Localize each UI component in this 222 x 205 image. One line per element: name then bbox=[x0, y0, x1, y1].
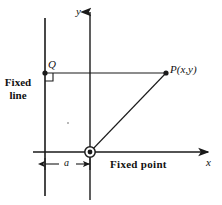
point-p-marker bbox=[163, 70, 168, 75]
point-q-marker bbox=[42, 70, 47, 75]
point-p-label: P(x,y) bbox=[170, 64, 197, 75]
scan-speck bbox=[67, 122, 69, 124]
fixed-point-dot bbox=[88, 150, 93, 155]
fixed-line-label-line1: Fixed bbox=[1, 76, 35, 89]
x-axis-label: x bbox=[206, 157, 211, 168]
diagram-graphics bbox=[0, 0, 222, 205]
distance-a-label: a bbox=[64, 158, 69, 168]
fixed-line-label: Fixed line bbox=[1, 76, 35, 101]
fixed-point-label: Fixed point bbox=[110, 159, 167, 170]
fixed-line-label-line2: line bbox=[1, 89, 35, 102]
diagram-canvas: y x Q P(x,y) a Fixed line Fixed point bbox=[0, 0, 222, 205]
point-q-label: Q bbox=[48, 59, 56, 70]
y-axis-label: y bbox=[76, 6, 81, 17]
segment-op bbox=[90, 73, 166, 152]
